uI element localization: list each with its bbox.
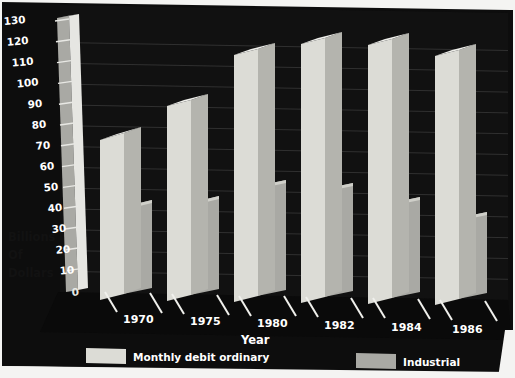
y-tick-label-50: 50 [43,180,59,193]
legend-label-monthly-debit-ordinary: Monthly debit ordinary [133,351,269,363]
x-tick-label-1984: 1984 [391,321,422,334]
legend-swatch-industrial [356,353,396,369]
legend-swatch-monthly-debit-ordinary [86,348,126,364]
y-tick-label-40: 40 [47,201,63,214]
y-tick-label-20: 20 [55,243,71,256]
y-tick-label-0: 0 [71,285,79,298]
y-tick-label-120: 120 [6,34,29,48]
chart-container: 130 120 110 100 90 80 70 60 50 40 30 20 … [0,0,515,378]
bar-chart-3d: 130 120 110 100 90 80 70 60 50 40 30 20 … [0,0,515,378]
x-tick-label-1970: 1970 [123,313,154,326]
x-axis-title: Year [240,333,270,347]
y-tick-label-10: 10 [59,263,75,276]
y-tick-label-130: 130 [3,13,26,27]
y-axis-title-line-3: Dollars [8,266,54,280]
y-tick-label-80: 80 [31,118,47,131]
bar-monthly-debit-ordinary-1984 [368,33,409,304]
y-axis-title-line-1: Billions [8,230,56,244]
y-tick-label-90: 90 [27,97,43,110]
bar-monthly-debit-ordinary-1986 [435,44,476,305]
legend-item-monthly-debit-ordinary: Monthly debit ordinary [86,348,269,364]
bar-monthly-debit-ordinary-1980 [234,43,275,302]
y-tick-label-60: 60 [39,159,55,172]
bar-monthly-debit-ordinary-1975 [167,94,208,301]
bar-monthly-debit-ordinary-1970 [100,127,141,300]
x-tick-label-1986: 1986 [452,323,483,336]
x-tick-label-1980: 1980 [257,317,288,330]
y-tick-label-70: 70 [35,139,51,152]
y-axis-title-line-2: Of [8,248,24,262]
legend-label-industrial: Industrial [403,356,460,368]
bar-monthly-debit-ordinary-1982 [301,32,342,303]
x-tick-label-1975: 1975 [190,315,221,328]
y-tick-label-110: 110 [11,55,34,69]
legend-item-industrial: Industrial [356,353,460,369]
x-tick-label-1982: 1982 [324,319,355,332]
y-tick-label-100: 100 [16,76,39,90]
